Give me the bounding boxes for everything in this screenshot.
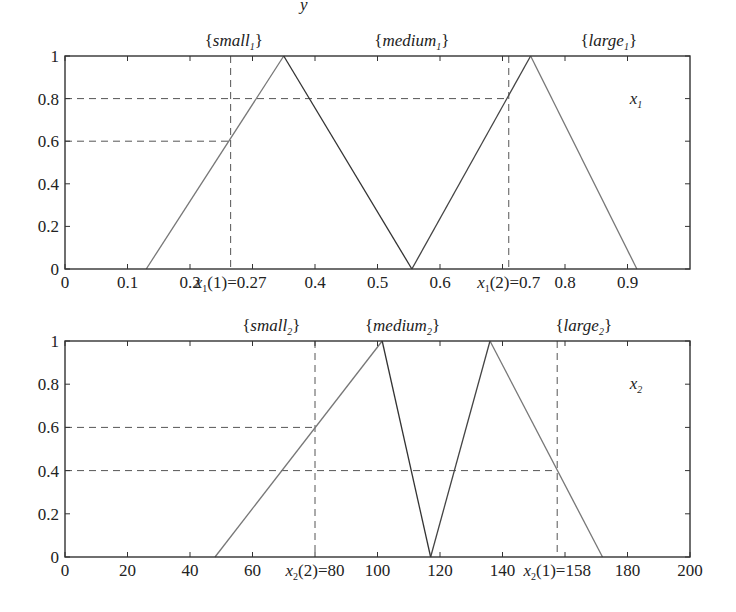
- variable-label: x1: [629, 89, 643, 110]
- y-tick-label: 0.2: [38, 505, 59, 524]
- y-tick-label: 0.8: [38, 90, 59, 109]
- x-tick-label: 0.9: [617, 273, 638, 292]
- set-label-small: {small2}: [242, 316, 300, 337]
- x-tick-label: 140: [490, 561, 516, 580]
- x-tick-label: 60: [244, 561, 261, 580]
- x-tick-label: 100: [365, 561, 391, 580]
- y-tick-label: 0.8: [38, 375, 59, 394]
- x-tick-label: 0.8: [554, 273, 575, 292]
- annotation-label: x1(2)=0.7: [476, 273, 541, 294]
- set-label-medium: {medium1}: [374, 31, 449, 52]
- y-tick-label: 0.4: [38, 175, 60, 194]
- x-tick-label: 200: [677, 561, 703, 580]
- x-tick-label: 0: [61, 273, 70, 292]
- y-tick-label: 0.4: [38, 462, 60, 481]
- set-label-small: {small1}: [205, 31, 263, 52]
- variable-label: x2: [629, 374, 643, 395]
- y-tick-label: 0.2: [38, 217, 59, 236]
- chart-x1-membership: 00.10.20.40.50.60.80.900.20.40.60.81x1(1…: [38, 31, 690, 294]
- annotation-label: x1(1)=0.27: [194, 273, 267, 294]
- membership-line: [284, 56, 412, 269]
- membership-line: [412, 56, 531, 269]
- y-tick-label: 1: [51, 47, 60, 66]
- membership-line: [531, 56, 637, 269]
- annotation-label: x2(1)=158: [522, 561, 590, 582]
- chart-x2-membership: 020406010012014018020000.20.40.60.81x2(2…: [38, 316, 703, 582]
- axes-frame: [65, 56, 690, 269]
- x-tick-label: 0.1: [117, 273, 138, 292]
- membership-line: [490, 341, 603, 557]
- y-tick-label: 1: [51, 332, 60, 351]
- x-tick-label: 40: [182, 561, 199, 580]
- y-tick-label: 0: [51, 548, 60, 567]
- set-label-large: {large1}: [580, 31, 637, 52]
- set-label-medium: {medium2}: [365, 316, 440, 337]
- x-tick-label: 0.6: [429, 273, 450, 292]
- y-tick-label: 0.6: [38, 132, 59, 151]
- y-tick-label: 0.6: [38, 418, 59, 437]
- annotation-label: x2(2)=80: [285, 561, 345, 582]
- membership-line: [382, 341, 430, 557]
- header-fragment: y: [298, 0, 308, 14]
- x-tick-label: 120: [427, 561, 453, 580]
- x-tick-label: 0.4: [304, 273, 326, 292]
- membership-line: [431, 341, 490, 557]
- membership-line: [146, 56, 284, 269]
- set-label-large: {large2}: [555, 316, 612, 337]
- axes-frame: [65, 341, 690, 557]
- x-tick-label: 180: [615, 561, 641, 580]
- membership-line: [215, 341, 382, 557]
- x-tick-label: 0.5: [367, 273, 388, 292]
- figure: y 00.10.20.40.50.60.80.900.20.40.60.81x1…: [0, 0, 736, 612]
- x-tick-label: 20: [119, 561, 136, 580]
- y-tick-label: 0: [51, 260, 60, 279]
- x-tick-label: 0: [61, 561, 70, 580]
